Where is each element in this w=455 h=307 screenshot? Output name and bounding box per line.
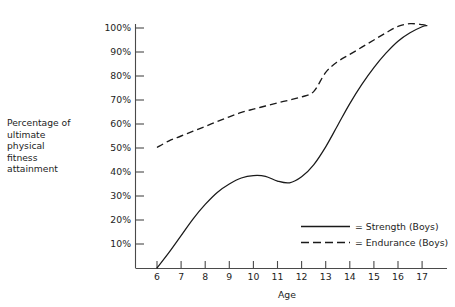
x-axis-ticks <box>157 261 422 269</box>
x-tick-label-8: 8 <box>196 272 214 282</box>
y-tick-label-40: 40% <box>97 167 131 177</box>
y-tick-label-10: 10% <box>97 239 131 249</box>
y-axis-title-line-2: ultimate <box>7 129 99 141</box>
y-tick-label-20: 20% <box>97 215 131 225</box>
y-axis-title-line-4: fitness <box>7 152 99 164</box>
y-axis-title-line-3: physical <box>7 140 99 152</box>
x-tick-label-7: 7 <box>172 272 190 282</box>
y-tick-label-30: 30% <box>97 191 131 201</box>
series-line-endurance <box>157 24 427 148</box>
x-tick-label-13: 13 <box>317 272 335 282</box>
x-axis-title: Age <box>257 289 317 300</box>
x-tick-label-16: 16 <box>389 272 407 282</box>
x-tick-label-12: 12 <box>293 272 311 282</box>
x-tick-label-6: 6 <box>148 272 166 282</box>
chart-figure: Percentage of ultimate physical fitness … <box>0 0 455 307</box>
y-tick-label-60: 60% <box>97 119 131 129</box>
legend-label-strength: = Strength (Boys) <box>355 222 439 232</box>
y-tick-label-70: 70% <box>97 95 131 105</box>
x-tick-label-17: 17 <box>413 272 431 282</box>
y-axis-title-line-1: Percentage of <box>7 117 99 129</box>
y-tick-label-80: 80% <box>97 71 131 81</box>
y-axis-title-line-5: attainment <box>7 163 99 175</box>
x-tick-label-11: 11 <box>269 272 287 282</box>
y-tick-label-100: 100% <box>97 23 131 33</box>
y-tick-label-90: 90% <box>97 47 131 57</box>
x-tick-label-10: 10 <box>244 272 262 282</box>
x-tick-label-14: 14 <box>341 272 359 282</box>
x-tick-label-9: 9 <box>220 272 238 282</box>
y-axis-ticks <box>136 28 145 244</box>
legend-label-endurance: = Endurance (Boys) <box>355 238 448 248</box>
x-tick-label-15: 15 <box>365 272 383 282</box>
y-tick-label-50: 50% <box>97 143 131 153</box>
y-axis-title: Percentage of ultimate physical fitness … <box>7 117 99 175</box>
